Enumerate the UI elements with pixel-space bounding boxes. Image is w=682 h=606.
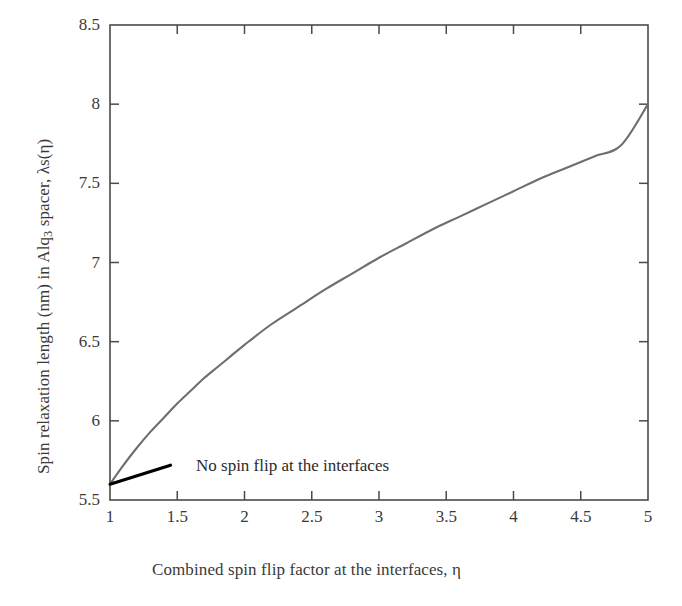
- y-tick-label: 7.5: [79, 173, 100, 193]
- x-axis-title: Combined spin flip factor at the interfa…: [152, 560, 461, 580]
- y-axis-title: Spin relaxation length (nm) in Alq3 spac…: [34, 139, 56, 474]
- axes-frame: [110, 25, 648, 500]
- y-tick-label: 5.5: [79, 490, 100, 510]
- y-tick-label: 6.5: [79, 332, 100, 352]
- x-tick-label: 4: [509, 507, 518, 527]
- figure-canvas: 5.566.577.588.5 11.522.533.544.55 Spin r…: [0, 0, 682, 606]
- x-tick-label: 3.5: [436, 507, 457, 527]
- y-tick-label: 6: [92, 411, 101, 431]
- x-tick-label: 5: [644, 507, 653, 527]
- axis-ticks: [110, 25, 648, 500]
- x-tick-label: 4.5: [570, 507, 591, 527]
- y-axis-title-subscript: 3: [41, 231, 55, 237]
- data-series-lines: [110, 104, 648, 484]
- y-axis-title-before: Spin relaxation length (nm) in Alq: [34, 237, 53, 474]
- y-axis-title-after: spacer, λs(η): [34, 139, 53, 231]
- annotation-label: No spin flip at the interfaces: [196, 456, 389, 476]
- x-tick-label: 2.5: [301, 507, 322, 527]
- y-tick-label: 8: [92, 94, 101, 114]
- y-tick-label: 7: [92, 253, 101, 273]
- x-tick-label: 1.5: [167, 507, 188, 527]
- x-tick-label: 1: [106, 507, 115, 527]
- x-tick-label: 3: [375, 507, 384, 527]
- annotation-pointer: [110, 465, 171, 484]
- x-tick-label: 2: [240, 507, 249, 527]
- y-tick-label: 8.5: [79, 15, 100, 35]
